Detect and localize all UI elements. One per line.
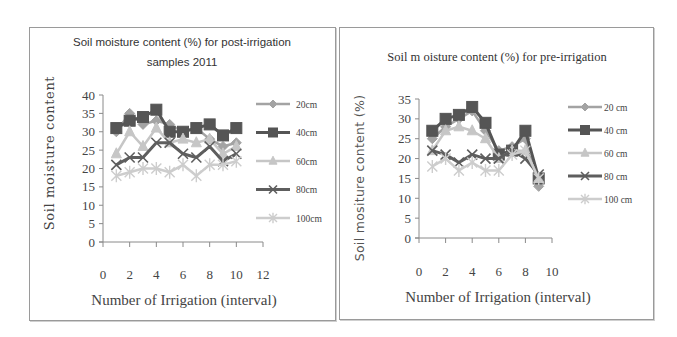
legend-label: 60cm (296, 157, 318, 167)
square-marker (520, 125, 531, 136)
legend-item: 40 cm (568, 126, 628, 136)
legend-label: 80 cm (604, 172, 628, 182)
x-tick-label: 12 (257, 267, 270, 282)
legend-label: 20cm (296, 100, 318, 110)
x-axis-label: Number of Irrigation (interval) (405, 289, 590, 306)
legend-item: 100cm (256, 213, 322, 224)
series-group (427, 101, 544, 191)
square-marker (204, 119, 215, 130)
legend-item: 80cm (256, 185, 318, 195)
y-tick-label: 0 (89, 235, 96, 250)
star-marker (427, 160, 437, 173)
legend-label: 20 cm (604, 103, 628, 113)
legend-item: 60 cm (568, 148, 628, 158)
y-tick-label: 35 (398, 92, 411, 107)
x-tick-label: 10 (230, 267, 243, 282)
series-line (116, 161, 236, 176)
square-marker (269, 128, 278, 137)
legend-item: 40cm (256, 128, 318, 138)
x-tick-label: 0 (416, 264, 423, 279)
y-tick-label: 35 (82, 106, 95, 121)
y-tick-label: 5 (89, 216, 96, 231)
square-marker (467, 101, 478, 112)
y-axis-label: Soil moisture content (42, 76, 57, 231)
legend-label: 40cm (296, 128, 318, 138)
x-tick-label: 8 (522, 264, 529, 279)
legend-label: 60 cm (604, 149, 628, 159)
x-tick-label: 10 (546, 264, 559, 279)
chart-title: Soil moisture content (%) for post-irrig… (73, 36, 291, 48)
square-marker (427, 125, 438, 136)
chart-panel-pre-irrigation: Soil m oisture content (%) for pre-irrig… (339, 27, 654, 320)
square-marker (138, 112, 149, 123)
x-tick-label: 2 (442, 264, 449, 279)
x-axis-label: Number of Irrigation (interval) (91, 292, 276, 309)
chart-panel-post-irrigation: Soil moisture content (%) for post-irrig… (29, 27, 336, 321)
y-tick-label: 0 (405, 231, 412, 246)
square-marker (581, 126, 590, 135)
legend-item: 20cm (256, 100, 318, 110)
legend-item: 100 cm (568, 194, 633, 205)
star-marker (178, 158, 188, 171)
legend-label: 100cm (296, 214, 322, 224)
y-tick-label: 10 (82, 198, 95, 213)
x-tick-label: 6 (180, 267, 187, 282)
y-tick-label: 5 (405, 211, 412, 226)
legend: 20cm40cm60cm80cm100cm (256, 100, 322, 224)
y-tick-label: 40 (82, 88, 95, 103)
legend-label: 40 cm (604, 126, 628, 136)
x-tick-label: 0 (100, 267, 107, 282)
square-marker (453, 109, 464, 120)
legend-item: 60cm (256, 156, 318, 166)
x-tick-label: 4 (469, 264, 476, 279)
y-tick-label: 25 (82, 143, 95, 158)
square-marker (480, 117, 491, 128)
legend-label: 80cm (296, 185, 318, 195)
square-marker (440, 113, 451, 124)
legend: 20 cm40 cm60 cm80 cm100 cm (568, 103, 633, 205)
y-tick-label: 15 (398, 171, 411, 186)
diamond-marker (581, 103, 589, 111)
legend-item: 20 cm (568, 103, 628, 113)
y-tick-label: 30 (398, 111, 411, 126)
y-tick-label: 20 (398, 151, 411, 166)
square-marker (124, 115, 135, 126)
series-100cm (427, 144, 543, 185)
y-tick-label: 10 (398, 191, 411, 206)
y-tick-label: 25 (398, 131, 411, 146)
square-marker (231, 123, 242, 134)
triangle-marker (125, 126, 135, 136)
x-tick-label: 2 (126, 267, 132, 282)
x-tick-label: 6 (496, 264, 503, 279)
square-marker (191, 123, 202, 134)
triangle-marker (151, 122, 161, 132)
y-tick-label: 30 (82, 124, 95, 139)
y-axis-label: Soil mositure content (%) (352, 95, 367, 262)
y-tick-label: 15 (82, 179, 95, 194)
diamond-marker (269, 100, 277, 108)
axes: 0510152025303540024681012 (82, 88, 270, 283)
pre-irrigation-chart: Soil m oisture content (%) for pre-irrig… (340, 28, 653, 319)
chart-title: Soil m oisture content (%) for pre-irrig… (387, 50, 607, 64)
legend-label: 100 cm (604, 195, 633, 205)
x-tick-label: 8 (206, 267, 213, 282)
square-marker (111, 123, 122, 134)
post-irrigation-chart: Soil moisture content (%) for post-irrig… (30, 28, 335, 320)
series-group (111, 104, 242, 182)
x-tick-label: 4 (153, 267, 160, 282)
square-marker (151, 104, 162, 115)
square-marker (218, 130, 229, 141)
chart-title: samples 2011 (147, 56, 218, 68)
legend-item: 80 cm (568, 172, 628, 182)
y-tick-label: 20 (82, 161, 95, 176)
square-marker (164, 126, 175, 137)
star-marker (191, 169, 201, 182)
x-marker (111, 160, 121, 170)
